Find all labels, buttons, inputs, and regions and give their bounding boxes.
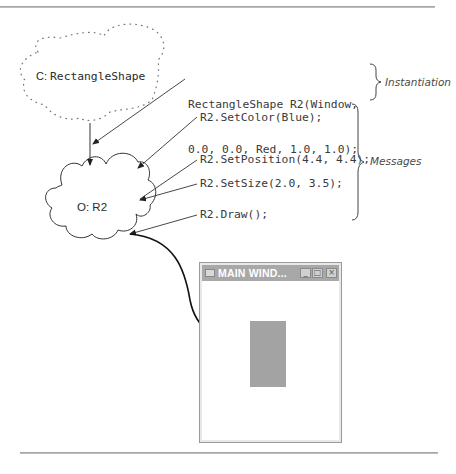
window-title-bar[interactable]: MAIN WIND... _ □ × [202, 265, 339, 281]
messages-annotation: Messages [370, 155, 422, 167]
instantiation-arrow [93, 79, 185, 144]
message-setsize: R2.SetSize(2.0, 3.5); [200, 176, 343, 191]
close-button[interactable]: × [326, 268, 337, 278]
instantiation-annotation: Instantiation [385, 76, 451, 88]
message-arrow-draw [130, 215, 197, 234]
message-setposition: R2.SetPosition(4.4, 4.4); [200, 152, 370, 167]
object-label: O: R2 [77, 201, 107, 213]
main-window: MAIN WIND... _ □ × [199, 262, 342, 443]
minimize-button[interactable]: _ [300, 268, 311, 278]
class-label: C: RectangleShape [36, 70, 145, 83]
window-title: MAIN WIND... [218, 267, 300, 279]
message-setcolor: R2.SetColor(Blue); [200, 110, 322, 125]
drawn-rectangle [250, 321, 286, 387]
window-system-icon[interactable] [205, 269, 215, 277]
instantiation-brace [370, 64, 381, 100]
class-label-prefix: C: [36, 70, 47, 82]
object-cloud-shape [46, 153, 156, 239]
bottom-rule [20, 452, 438, 454]
maximize-button[interactable]: □ [312, 268, 323, 278]
class-label-name: RectangleShape [50, 70, 145, 83]
message-draw: R2.Draw(); [200, 207, 268, 222]
